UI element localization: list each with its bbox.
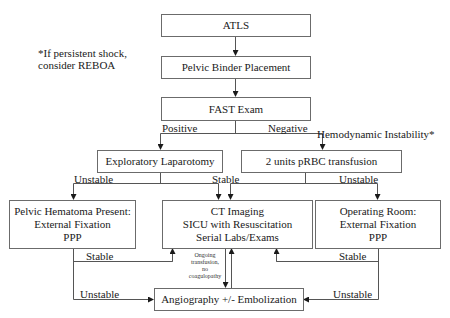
ongoing-line2: transfusion, [184, 259, 226, 266]
edge-label-exlap-unstable: Unstable [74, 173, 113, 185]
node-operating-room-line3: PPP [369, 231, 387, 244]
node-ct-imaging-line3: Serial Labs/Exams [196, 231, 279, 244]
node-fast-exam-label: FAST Exam [209, 103, 263, 116]
edge-label-or-unstable: Unstable [333, 288, 372, 300]
edge-label-ongoing-transfusion: Ongoing transfusion, no coagulopathy [184, 252, 226, 280]
node-prbc-transfusion: 2 units pRBC transfusion [241, 150, 402, 173]
reboa-note-line1: *If persistent shock, [38, 47, 127, 59]
node-pelvic-hematoma: Pelvic Hematoma Present: External Fixati… [9, 200, 136, 249]
ongoing-line4: coagulopathy [184, 273, 226, 280]
edge-label-hematoma-unstable: Unstable [80, 288, 119, 300]
node-prbc-transfusion-label: 2 units pRBC transfusion [266, 155, 378, 168]
node-pelvic-hematoma-line3: PPP [63, 231, 81, 244]
edge-label-negative: Negative [268, 122, 308, 134]
node-atls: ATLS [161, 14, 311, 37]
ongoing-line1: Ongoing [184, 252, 226, 259]
node-ct-imaging-line1: CT Imaging [211, 205, 264, 218]
node-operating-room-line2: External Fixation [340, 218, 417, 231]
node-angiography: Angiography +/- Embolization [154, 288, 304, 311]
node-ct-imaging: CT Imaging SICU with Resuscitation Seria… [162, 200, 313, 249]
reboa-note-line2: consider REBOA [38, 59, 127, 71]
node-operating-room: Operating Room: External Fixation PPP [315, 200, 441, 249]
node-pelvic-binder-label: Pelvic Binder Placement [182, 61, 291, 74]
edge-label-stable-center: Stable [212, 173, 240, 185]
edge-label-positive: Positive [162, 122, 197, 134]
node-pelvic-hematoma-line1: Pelvic Hematoma Present: [14, 205, 131, 218]
node-operating-room-line1: Operating Room: [340, 205, 417, 218]
edge-label-or-stable: Stable [339, 250, 367, 262]
node-pelvic-hematoma-line2: External Fixation [34, 218, 111, 231]
node-angiography-label: Angiography +/- Embolization [161, 293, 297, 306]
edge-label-hemodynamic-instability: Hemodynamic Instability* [317, 128, 435, 140]
edge-label-hematoma-stable: Stable [86, 250, 114, 262]
node-exploratory-laparotomy-label: Exploratory Laparotomy [105, 155, 214, 168]
edge-label-prbc-unstable: Unstable [339, 173, 378, 185]
node-exploratory-laparotomy: Exploratory Laparotomy [97, 150, 223, 173]
node-pelvic-binder: Pelvic Binder Placement [161, 56, 311, 79]
node-fast-exam: FAST Exam [161, 97, 311, 121]
ongoing-line3: no [184, 266, 226, 273]
reboa-note: *If persistent shock, consider REBOA [38, 47, 127, 71]
node-ct-imaging-line2: SICU with Resuscitation [183, 218, 292, 231]
node-atls-label: ATLS [223, 19, 249, 32]
